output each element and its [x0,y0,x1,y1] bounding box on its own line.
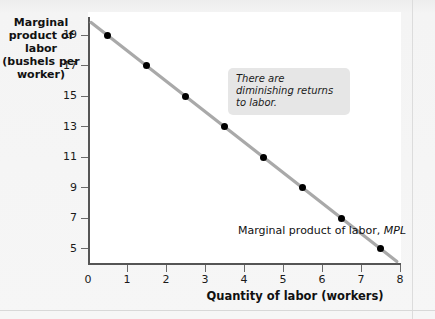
chart-figure: Marginal product of labor (bushels per w… [0,0,435,319]
x-tick [244,265,245,272]
annotation-diminishing-returns: There are diminishing returns to labor. [228,68,350,115]
y-tick [81,218,88,219]
y-tick [81,35,88,36]
series-label-text: Marginal product of labor, [238,224,384,237]
y-tick [81,248,88,249]
x-tick [322,265,323,272]
y-tick-label: 15 [37,90,77,101]
x-tick-label: 6 [307,274,337,286]
y-axis-title-line-1: Marginal [2,16,80,29]
y-axis-line [88,17,90,265]
x-tick-label: 2 [151,274,181,286]
series-label-mpl-abbrev: MPL [384,224,406,237]
y-tick [81,187,88,188]
data-point [338,215,345,222]
y-tick-label: 13 [37,121,77,132]
x-tick [166,265,167,272]
x-tick [400,265,401,272]
x-tick-label: 7 [346,274,376,286]
page-edge-bottom [0,310,435,311]
x-tick-label: 1 [112,274,142,286]
y-tick-label: 11 [37,151,77,162]
x-tick [283,265,284,272]
y-tick-label: 7 [37,212,77,223]
y-tick [81,65,88,66]
data-point [260,154,267,161]
data-point [104,32,111,39]
y-tick-label: 19 [37,29,77,40]
x-tick-label: 3 [190,274,220,286]
x-tick-label: 4 [229,274,259,286]
x-tick [205,265,206,272]
y-tick-label: 9 [37,182,77,193]
x-tick-label: 0 [73,274,103,286]
y-tick [81,126,88,127]
y-tick-label: 17 [37,60,77,71]
series-label-mpl: Marginal product of labor, MPL [238,224,406,237]
x-tick [361,265,362,272]
x-tick-label: 5 [268,274,298,286]
data-point [182,93,189,100]
x-axis-title: Quantity of labor (workers) [180,289,410,303]
y-tick [81,96,88,97]
x-tick-label: 8 [385,274,415,286]
page-edge-right [412,0,413,319]
y-tick [81,157,88,158]
y-tick-label: 5 [37,243,77,254]
x-tick [127,265,128,272]
